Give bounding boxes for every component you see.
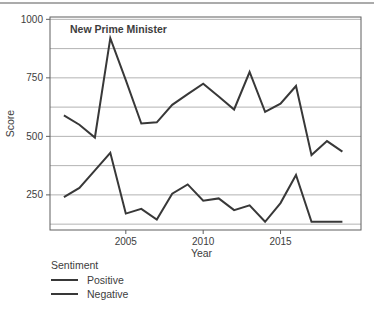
legend: Sentiment Positive Negative [51, 259, 128, 301]
positive-line-swatch [51, 279, 78, 281]
chart-figure: 2505007501000200520102015New Prime Minis… [0, 0, 374, 312]
legend-label-positive: Positive [87, 274, 124, 286]
x-tick-label-2005: 2005 [115, 236, 138, 247]
legend-title: Sentiment [51, 259, 128, 271]
y-axis-label: Score [4, 110, 16, 138]
x-tick-label-2015: 2015 [269, 236, 292, 247]
x-tick-label-2010: 2010 [192, 236, 215, 247]
negative-line-swatch [51, 293, 78, 295]
series-line-negative [64, 153, 343, 222]
legend-item-negative: Negative [51, 287, 128, 301]
x-axis-label: Year [191, 247, 213, 258]
chart-title-annotation: New Prime Minister [70, 23, 167, 35]
series-line-positive [64, 38, 343, 155]
sentiment-line-chart: 2505007501000200520102015New Prime Minis… [0, 0, 374, 258]
legend-item-positive: Positive [51, 273, 128, 287]
y-tick-label-250: 250 [26, 189, 43, 200]
legend-label-negative: Negative [87, 288, 128, 300]
y-tick-label-500: 500 [26, 131, 43, 142]
y-tick-label-1000: 1000 [21, 14, 44, 25]
y-tick-label-750: 750 [26, 72, 43, 83]
